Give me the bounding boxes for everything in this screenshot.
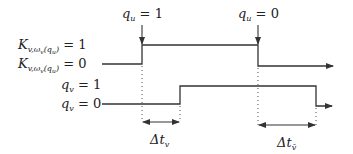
label-qu-one: qu = 1 <box>122 6 163 23</box>
k-signal-waveform <box>102 45 333 66</box>
label-k-low: Kv,ωv(qu) = 0 <box>17 56 86 74</box>
label-dt-vbar: Δtv̄ <box>276 135 297 152</box>
timing-diagram: Kv,ωv(qu) = 1 Kv,ωv(qu) = 0 qv = 1 qv = … <box>0 0 353 154</box>
label-dt-v: Δtv <box>149 132 170 149</box>
label-qu-zero: qu = 0 <box>238 6 279 23</box>
label-qv-high: qv = 1 <box>61 77 101 94</box>
label-k-high: Kv,ωv(qu) = 1 <box>17 37 86 55</box>
qv-signal-waveform <box>102 86 332 106</box>
label-qv-low: qv = 0 <box>61 96 101 113</box>
dotted-guides <box>142 66 316 125</box>
